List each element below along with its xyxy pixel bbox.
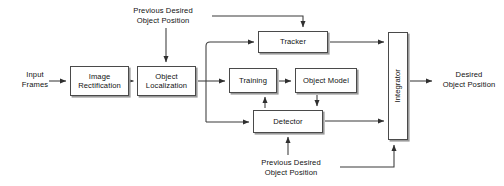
node-object-localization-label: Object Localization bbox=[144, 72, 189, 91]
node-detector-label: Detector bbox=[271, 117, 305, 126]
node-object-localization[interactable]: Object Localization bbox=[137, 66, 196, 96]
block-diagram: Image Rectification Object Localization … bbox=[0, 0, 504, 186]
node-integrator[interactable]: Integrator bbox=[388, 32, 408, 140]
label-previous-desired-object-position-bottom: Previous Desired Object Position bbox=[246, 158, 336, 177]
connector-previous-desired-top-to-tracker bbox=[212, 16, 303, 27]
node-object-model-label: Object Model bbox=[301, 76, 351, 85]
node-training[interactable]: Training bbox=[229, 68, 277, 93]
node-tracker-label: Tracker bbox=[278, 37, 308, 46]
connector-object-localization-to-tracker bbox=[206, 42, 254, 46]
node-integrator-label: Integrator bbox=[393, 67, 402, 105]
label-desired-object-position: Desired Object Position bbox=[436, 70, 502, 89]
node-image-rectification[interactable]: Image Rectification bbox=[70, 66, 129, 96]
connector-previous-desired-bottom-to-integrator bbox=[340, 145, 394, 167]
node-detector[interactable]: Detector bbox=[253, 110, 323, 133]
node-image-rectification-label: Image Rectification bbox=[76, 72, 123, 91]
label-previous-desired-object-position-top: Previous Desired Object Position bbox=[118, 6, 208, 25]
node-object-model[interactable]: Object Model bbox=[295, 68, 357, 93]
node-tracker[interactable]: Tracker bbox=[258, 31, 328, 53]
node-training-label: Training bbox=[237, 76, 269, 85]
label-input-frames: Input Frames bbox=[14, 70, 56, 89]
